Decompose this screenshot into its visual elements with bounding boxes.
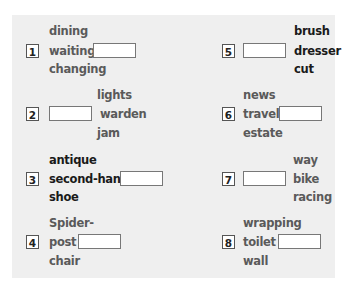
answer-box-2[interactable] <box>49 106 92 121</box>
word-1-top: dining <box>49 24 88 38</box>
word-7-top: way <box>293 153 318 167</box>
word-2-middle: warden <box>100 107 146 121</box>
item-number-2: 2 <box>26 107 39 121</box>
word-7-bottom: racing <box>293 190 332 204</box>
item-number-6: 6 <box>222 107 235 121</box>
item-number-8: 8 <box>222 235 235 249</box>
word-3-bottom: shoe <box>49 190 79 204</box>
word-3-top: antique <box>49 153 97 167</box>
word-4-bottom: chair <box>49 254 80 268</box>
word-1-middle: waiting <box>49 44 95 58</box>
item-number-1: 1 <box>26 44 39 58</box>
answer-box-6[interactable] <box>279 106 322 121</box>
word-2-top: lights <box>97 88 132 102</box>
word-6-middle: travel <box>243 107 279 121</box>
word-5-bottom: cut <box>294 62 314 76</box>
answer-box-8[interactable] <box>278 234 321 249</box>
word-4-middle: post <box>49 235 76 249</box>
word-5-middle: dresser <box>294 44 341 58</box>
word-6-bottom: estate <box>243 126 282 140</box>
answer-box-3[interactable] <box>120 171 163 186</box>
answer-box-5[interactable] <box>243 43 286 58</box>
word-4-top: Spider- <box>49 216 94 230</box>
word-8-bottom: wall <box>243 254 268 268</box>
word-7-middle: bike <box>293 172 319 186</box>
item-number-3: 3 <box>26 172 39 186</box>
word-5-top: brush <box>294 24 330 38</box>
answer-box-4[interactable] <box>78 234 121 249</box>
word-3-middle: second-hand <box>49 172 129 186</box>
word-8-top: wrapping <box>243 216 301 230</box>
word-6-top: news <box>243 88 275 102</box>
item-number-4: 4 <box>26 235 39 249</box>
item-number-7: 7 <box>222 172 235 186</box>
word-2-bottom: jam <box>97 126 120 140</box>
answer-box-1[interactable] <box>93 43 136 58</box>
word-8-middle: toilet <box>243 235 276 249</box>
answer-box-7[interactable] <box>243 171 286 186</box>
word-1-bottom: changing <box>49 62 106 76</box>
item-number-5: 5 <box>222 44 235 58</box>
